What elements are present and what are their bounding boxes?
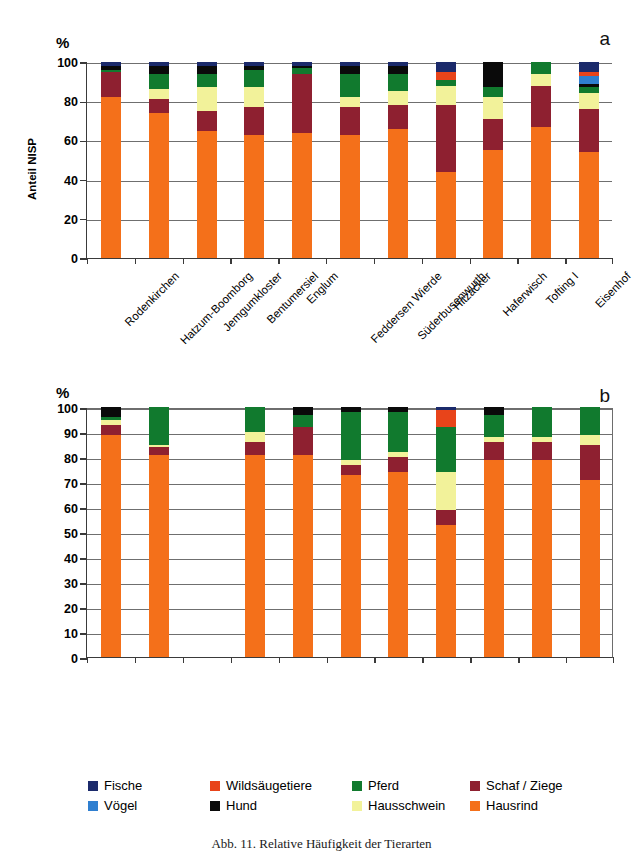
bar-segment-schaf-ziege[interactable] [292,74,312,133]
bar-segment-hund[interactable] [483,62,503,87]
bar-segment-hausrind[interactable] [293,455,313,658]
bar-segment-schaf-ziege[interactable] [531,86,551,127]
bar-segment-hausrind[interactable] [292,133,312,258]
bar-segment-pferd[interactable] [531,62,551,74]
bar-segment-hausschwein[interactable] [341,460,361,465]
bar-segment-schaf-ziege[interactable] [341,465,361,475]
bar-segment-pferd[interactable] [197,74,217,88]
bar-10[interactable] [531,62,551,258]
bar-segment-fische[interactable] [388,62,408,66]
legend-item-schaf-ziege[interactable]: Schaf / Ziege [470,778,563,793]
bar-10[interactable] [532,407,552,657]
bar-segment-pferd[interactable] [388,74,408,92]
bar-segment-schaf-ziege[interactable] [388,457,408,472]
bar-segment-hausrind[interactable] [484,460,504,658]
bar-segment-pferd[interactable] [532,407,552,437]
bar-segment-hund[interactable] [293,407,313,415]
bar-segment-hausschwein[interactable] [245,432,265,442]
bar-segment-schaf-ziege[interactable] [532,442,552,460]
bar-segment-schaf-ziege[interactable] [484,442,504,460]
legend-item-pferd[interactable]: Pferd [352,778,399,793]
bar-segment-hausschwein[interactable] [580,435,600,445]
bar-segment-hund[interactable] [484,407,504,415]
bar-segment-hausrind[interactable] [483,150,503,258]
bar-segment-hausrind[interactable] [149,113,169,258]
bar-segment-hausrind[interactable] [149,455,169,658]
bar-4[interactable] [245,407,265,657]
bar-segment-pferd[interactable] [341,412,361,460]
bar-segment-fische[interactable] [340,62,360,66]
bar-9[interactable] [483,62,503,258]
bar-segment-schaf-ziege[interactable] [293,427,313,455]
bar-segment-hund[interactable] [197,66,217,74]
bar-6[interactable] [341,407,361,657]
bar-segment-wilds-ugetiere[interactable] [579,72,599,76]
bar-segment-fische[interactable] [436,62,456,72]
bar-segment-wilds-ugetiere[interactable] [436,72,456,80]
bar-segment-hausrind[interactable] [101,97,121,258]
bar-segment-schaf-ziege[interactable] [436,510,456,525]
bar-7[interactable] [388,62,408,258]
bar-segment-schaf-ziege[interactable] [197,111,217,131]
bar-segment-pferd[interactable] [293,415,313,428]
bar-segment-hausschwein[interactable] [484,437,504,442]
bar-segment-fische[interactable] [436,407,456,410]
bar-segment-pferd[interactable] [580,407,600,435]
bar-segment-hausrind[interactable] [579,152,599,258]
bar-segment-schaf-ziege[interactable] [149,447,169,455]
bar-segment-pferd[interactable] [244,70,264,88]
bar-segment-hausschwein[interactable] [531,74,551,86]
bar-segment-hausschwein[interactable] [149,89,169,99]
bar-segment-schaf-ziege[interactable] [388,105,408,129]
bar-segment-hausrind[interactable] [388,129,408,258]
bar-2[interactable] [149,407,169,657]
bar-9[interactable] [484,407,504,657]
bar-segment-pferd[interactable] [436,427,456,472]
bar-segment-pferd[interactable] [484,415,504,438]
legend-item-hausschwein[interactable]: Hausschwein [352,798,445,813]
bar-segment-pferd[interactable] [149,407,169,445]
bar-segment-pferd[interactable] [149,74,169,90]
bar-segment-schaf-ziege[interactable] [101,72,121,97]
bar-segment-hausschwein[interactable] [436,472,456,510]
legend-item-wildsäugetiere[interactable]: Wildsäugetiere [210,778,312,793]
bar-segment-v-gel[interactable] [579,76,599,84]
bar-segment-hund[interactable] [579,84,599,88]
bar-segment-hausschwein[interactable] [197,87,217,111]
bar-segment-hausrind[interactable] [244,135,264,258]
bar-segment-hausrind[interactable] [341,475,361,658]
bar-segment-hund[interactable] [101,66,121,70]
bar-3[interactable] [197,62,217,258]
bar-segment-schaf-ziege[interactable] [244,107,264,134]
bar-segment-fische[interactable] [244,62,264,66]
bar-11[interactable] [579,62,599,258]
bar-segment-fische[interactable] [579,62,599,72]
bar-segment-hausschwein[interactable] [579,93,599,109]
bar-7[interactable] [388,407,408,657]
bar-segment-pferd[interactable] [436,80,456,86]
bar-segment-pferd[interactable] [292,68,312,74]
bar-segment-hausschwein[interactable] [388,452,408,457]
bar-segment-pferd[interactable] [483,87,503,97]
legend-item-hund[interactable]: Hund [210,798,257,813]
bar-5[interactable] [292,62,312,258]
bar-segment-hund[interactable] [149,66,169,74]
bar-1[interactable] [101,407,121,657]
bar-1[interactable] [101,62,121,258]
bar-segment-hund[interactable] [388,66,408,74]
bar-segment-hausrind[interactable] [340,135,360,258]
bar-segment-pferd[interactable] [101,417,121,420]
bar-segment-schaf-ziege[interactable] [149,99,169,113]
bar-segment-fische[interactable] [149,62,169,66]
bar-segment-hausschwein[interactable] [244,87,264,107]
bar-segment-hausschwein[interactable] [483,97,503,119]
bar-segment-hausschwein[interactable] [532,437,552,442]
bar-segment-schaf-ziege[interactable] [101,425,121,435]
bar-segment-hund[interactable] [341,407,361,412]
bar-segment-hund[interactable] [101,407,121,417]
bar-11[interactable] [580,407,600,657]
bar-segment-hausrind[interactable] [245,455,265,658]
bar-segment-hausschwein[interactable] [388,91,408,105]
bar-segment-hausschwein[interactable] [101,420,121,425]
bar-segment-pferd[interactable] [101,70,121,72]
